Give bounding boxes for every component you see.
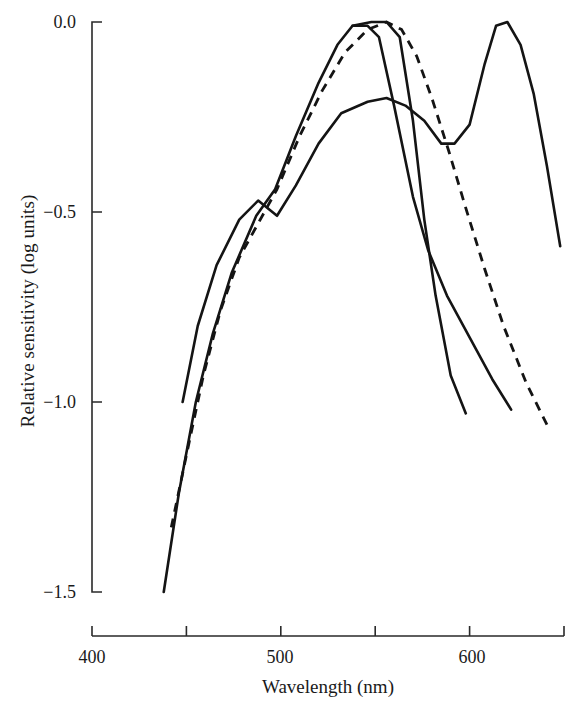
axes-group xyxy=(92,22,564,636)
y-tick-label-2: −1.0 xyxy=(16,393,76,411)
x-tick-label-600: 600 xyxy=(432,648,512,666)
series-short-wavelength-curve xyxy=(164,22,466,592)
plot-area xyxy=(0,0,585,726)
series-dashed-reference-curve xyxy=(171,22,549,527)
y-tick-label-1: −0.5 xyxy=(16,203,76,221)
series-middle-wavelength-curve xyxy=(183,22,561,402)
series-long-wavelength-curve xyxy=(353,26,512,410)
y-tick-label-3: −1.5 xyxy=(16,583,76,601)
y-tick-label-0: 0.0 xyxy=(16,13,76,31)
x-tick-label-400: 400 xyxy=(52,648,132,666)
y-axis-title: Relative sensitivity (log units) xyxy=(17,151,39,471)
figure-container: Relative sensitivity (log units) 0.0 −0.… xyxy=(0,0,585,726)
x-axis-title: Wavelength (nm) xyxy=(92,676,564,698)
x-axis-line xyxy=(92,626,564,636)
series-group xyxy=(164,22,560,592)
x-tick-label-500: 500 xyxy=(240,648,320,666)
y-axis-line xyxy=(92,22,102,592)
